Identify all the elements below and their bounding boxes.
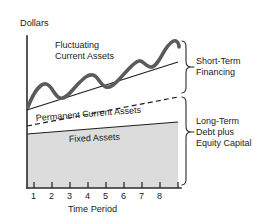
short-term-financing-brace (182, 41, 190, 93)
x-tick-label: 8 (157, 191, 162, 201)
y-axis-label: Dollars (20, 18, 49, 28)
x-tick-label: 4 (85, 191, 90, 201)
permanent-current-assets-label: Permanent Current Assets (35, 105, 142, 123)
long-term-financing-brace (182, 97, 190, 185)
financing-strategy-diagram: Dollars Time Period 1 2 3 4 5 6 7 8 Fluc… (0, 0, 257, 220)
diagram-canvas: Dollars Time Period 1 2 3 4 5 6 7 8 Fluc… (0, 0, 257, 220)
fluctuating-current-assets-label-line1: Fluctuating (55, 40, 99, 50)
x-tick-label: 3 (67, 191, 72, 201)
x-tick-labels: 1 2 3 4 5 6 7 8 (31, 191, 162, 201)
x-axis-label: Time Period (68, 204, 117, 214)
short-term-financing-label-line2: Financing (196, 67, 235, 77)
x-tick-label: 2 (49, 191, 54, 201)
long-term-financing-label-line2: Debt plus (196, 127, 235, 137)
long-term-financing-label-line1: Long-Term (196, 116, 239, 126)
x-tick-label: 1 (31, 191, 36, 201)
long-term-financing-label-line3: Equity Capital (196, 138, 252, 148)
x-tick-label: 5 (103, 191, 108, 201)
x-tick-label: 7 (139, 191, 144, 201)
x-tick-label: 6 (121, 191, 126, 201)
short-term-financing-label-line1: Short-Term (196, 56, 241, 66)
fluctuating-current-assets-label-line2: Current Assets (55, 51, 115, 61)
